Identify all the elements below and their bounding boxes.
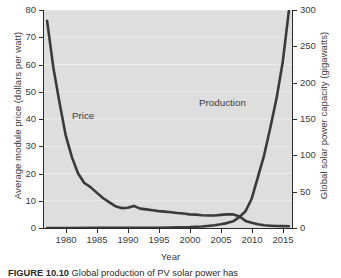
x-tick-1980 (66, 229, 67, 233)
y-left-tick-10 (39, 201, 43, 202)
y-left-tick-40 (39, 119, 43, 120)
y-right-tick-200 (293, 83, 297, 84)
x-axis-title: Year (0, 251, 341, 262)
x-tick-1990 (128, 229, 129, 233)
y-left-tick-20 (39, 174, 43, 175)
y-axis-left-title: Average module price (dollars per watt) (12, 16, 23, 216)
x-tick-1985 (97, 229, 98, 233)
y-right-tick-150 (293, 119, 297, 120)
y-right-label-150: 150 (300, 114, 316, 124)
figure-caption-text: Global production of PV solar power has (72, 268, 238, 278)
y-right-tick-50 (293, 192, 297, 193)
y-right-tick-300 (293, 10, 297, 11)
y-right-tick-100 (293, 155, 297, 156)
x-label-2000: 2000 (174, 235, 206, 245)
y-left-tick-60 (39, 65, 43, 66)
x-tick-2005 (221, 229, 222, 233)
y-left-label-80: 80 (8, 5, 36, 15)
y-right-label-300: 300 (300, 5, 316, 15)
y-axis-left-line (43, 10, 44, 229)
y-left-tick-0 (39, 228, 43, 229)
x-tick-2000 (190, 229, 191, 233)
series-label-production: Production (199, 97, 246, 108)
y-right-tick-250 (293, 46, 297, 47)
y-right-label-50: 50 (300, 187, 311, 197)
figure-container: 80 70 60 50 40 30 20 10 0 300 250 200 15… (0, 0, 341, 278)
y-left-tick-70 (39, 37, 43, 38)
x-label-1990: 1990 (112, 235, 144, 245)
y-left-tick-50 (39, 92, 43, 93)
x-tick-2010 (252, 229, 253, 233)
y-right-tick-0 (293, 228, 297, 229)
y-right-label-250: 250 (300, 41, 316, 51)
x-label-1980: 1980 (50, 235, 82, 245)
series-label-price: Price (72, 110, 94, 121)
x-label-1995: 1995 (143, 235, 175, 245)
y-left-tick-30 (39, 146, 43, 147)
x-tick-1995 (159, 229, 160, 233)
figure-caption: FIGURE 10.10 Global production of PV sol… (8, 268, 341, 278)
x-label-2010: 2010 (236, 235, 268, 245)
gridlines (44, 10, 292, 201)
y-left-tick-80 (39, 10, 43, 11)
x-axis-line (43, 228, 293, 229)
x-label-1985: 1985 (81, 235, 113, 245)
y-left-label-0: 0 (8, 223, 36, 233)
y-right-label-0: 0 (300, 223, 305, 233)
x-tick-2015 (283, 229, 284, 233)
x-label-2005: 2005 (205, 235, 237, 245)
y-right-label-100: 100 (300, 150, 316, 160)
x-label-2015: 2015 (267, 235, 299, 245)
y-axis-right-title: Global solar power capacity (gigawatts) (318, 16, 329, 216)
figure-caption-label: FIGURE 10.10 (8, 268, 69, 278)
y-right-label-200: 200 (300, 78, 316, 88)
